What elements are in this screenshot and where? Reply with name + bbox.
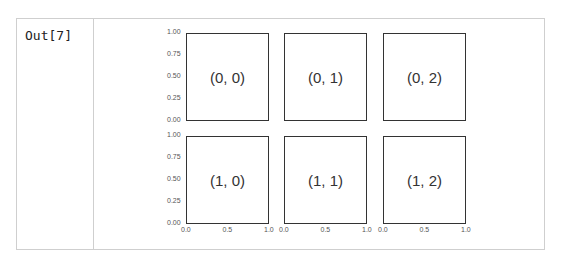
x-tick-label: 0.5 [223, 226, 233, 233]
subplot-axes: (1, 1) [284, 136, 367, 224]
subplot-axes: (1, 2) [383, 136, 466, 224]
x-tick-label: 0.0 [378, 226, 388, 233]
x-tick-label: 0.0 [279, 226, 289, 233]
subplot-label: (1, 1) [285, 172, 366, 189]
x-tick-label: 0.0 [181, 226, 191, 233]
x-tick-label: 0.5 [420, 226, 430, 233]
y-tick-label: 1.00 [167, 131, 181, 138]
subplot-axes: (0, 2) [383, 33, 466, 121]
y-tick-label: 0.50 [167, 175, 181, 182]
y-tick-label: 1.00 [167, 28, 181, 35]
subplot-axes: (0, 0) [186, 33, 269, 121]
y-tick-label: 0.50 [167, 72, 181, 79]
subplot-label: (1, 0) [187, 172, 268, 189]
output-prompt-area: Out[7] [17, 19, 94, 249]
subplot-axes: (1, 0) [186, 136, 269, 224]
subplot-label: (0, 0) [187, 69, 268, 86]
output-prompt: Out[7] [25, 28, 72, 43]
subplot-axes: (0, 1) [284, 33, 367, 121]
subplot-label: (1, 2) [384, 172, 465, 189]
y-tick-label: 0.25 [167, 94, 181, 101]
subplot-label: (0, 1) [285, 69, 366, 86]
subplot-label: (0, 2) [384, 69, 465, 86]
y-tick-label: 0.75 [167, 50, 181, 57]
x-tick-label: 1.0 [264, 226, 274, 233]
y-tick-label: 0.75 [167, 153, 181, 160]
x-tick-label: 0.5 [321, 226, 331, 233]
x-tick-label: 1.0 [461, 226, 471, 233]
y-tick-label: 0.25 [167, 197, 181, 204]
x-tick-label: 1.0 [362, 226, 372, 233]
y-tick-label: 0.00 [167, 116, 181, 123]
y-tick-label: 0.00 [167, 219, 181, 226]
